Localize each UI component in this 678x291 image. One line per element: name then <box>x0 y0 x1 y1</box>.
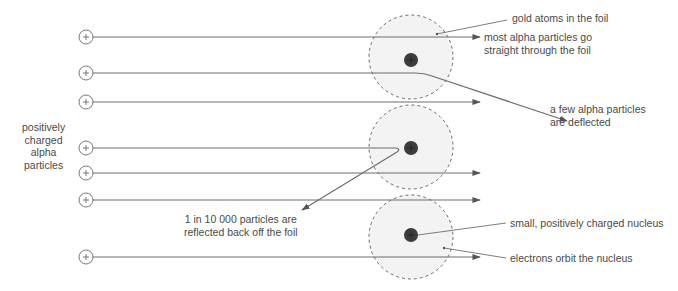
alpha-particle-1 <box>79 30 93 44</box>
label-line: a few alpha particles <box>550 103 646 116</box>
label-line: are deflected <box>550 116 646 129</box>
label-line: most alpha particles go <box>484 31 592 44</box>
label-line: positively <box>22 121 65 134</box>
alpha-particles-label: positively charged alpha particles <box>22 121 65 171</box>
label-line: straight through the foil <box>484 44 592 57</box>
most-straight-label: most alpha particles go straight through… <box>484 31 592 56</box>
alpha-particle-5 <box>79 166 93 180</box>
label-line: charged <box>22 134 65 147</box>
label-line: reflected back off the foil <box>184 226 298 239</box>
gold-atoms-label: gold atoms in the foil <box>512 12 608 25</box>
label-line: 1 in 10 000 particles are <box>184 213 298 226</box>
reflected-label: 1 in 10 000 particles are reflected back… <box>184 213 298 238</box>
nucleus-3 <box>404 228 418 242</box>
alpha-particle-6 <box>79 193 93 207</box>
nucleus-label: small, positively charged nucleus <box>510 217 664 230</box>
label-line: alpha <box>22 146 65 159</box>
alpha-particle-2 <box>79 66 93 80</box>
nucleus-1 <box>404 53 418 67</box>
alpha-particle-7 <box>79 250 93 264</box>
nucleus-2 <box>404 141 418 155</box>
few-deflected-label: a few alpha particles are deflected <box>550 103 646 128</box>
alpha-particle-4 <box>79 141 93 155</box>
alpha-particle-3 <box>79 95 93 109</box>
alpha-path-deflected <box>93 73 567 121</box>
electrons-label: electrons orbit the nucleus <box>510 252 633 265</box>
alpha-path-reflected <box>93 148 399 210</box>
label-line: particles <box>22 159 65 172</box>
